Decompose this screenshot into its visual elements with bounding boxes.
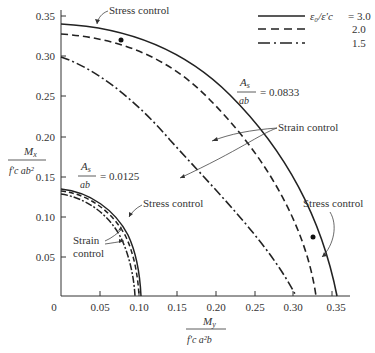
- svg-text:As: As: [239, 76, 250, 90]
- svg-text:0.20: 0.20: [36, 131, 56, 143]
- annotations: Stress control Strain control Stress con…: [73, 4, 363, 259]
- svg-text:= 0.0833: = 0.0833: [260, 86, 300, 98]
- svg-text:Stress control: Stress control: [109, 4, 169, 16]
- svg-text:Mx: Mx: [23, 145, 37, 159]
- arrowheads: [95, 19, 327, 257]
- svg-text:0.15: 0.15: [36, 171, 56, 183]
- svg-text:Strain: Strain: [73, 234, 100, 246]
- interaction-diagram: 0.35 0.30 0.25 0.20 0.15 0.10 0.05 0 0.0…: [0, 0, 375, 353]
- label-as-0833: As ab = 0.0833: [237, 76, 300, 106]
- label-as-0125: As ab = 0.0125: [78, 160, 140, 190]
- svg-text:Stress control: Stress control: [303, 197, 363, 209]
- svg-text:0.30: 0.30: [36, 50, 56, 62]
- x-tick-labels: 0 0.05 0.10 0.15 0.20 0.25 0.30 0.35: [51, 301, 346, 313]
- data-point-marker: [119, 38, 124, 43]
- svg-text:0.35: 0.35: [36, 10, 56, 22]
- svg-text:0.25: 0.25: [245, 301, 265, 313]
- svg-text:0.05: 0.05: [36, 251, 56, 263]
- svg-text:0.20: 0.20: [206, 301, 226, 313]
- svg-text:1.5: 1.5: [352, 37, 366, 49]
- axes: [61, 10, 350, 296]
- svg-text:f'c a²b: f'c a²b: [187, 334, 212, 345]
- svg-text:f'c ab²: f'c ab²: [9, 165, 35, 176]
- svg-text:ab: ab: [239, 95, 249, 106]
- svg-text:0: 0: [51, 301, 57, 313]
- svg-text:control: control: [73, 247, 104, 259]
- svg-text:0.25: 0.25: [36, 90, 56, 102]
- data-point-marker: [311, 235, 316, 240]
- svg-text:Stress control: Stress control: [143, 197, 203, 209]
- legend-labels: ε₀/ε'c = 3.0 2.0 1.5: [310, 10, 371, 49]
- svg-text:Strain control: Strain control: [278, 121, 338, 133]
- svg-text:ε₀/ε'c: ε₀/ε'c: [310, 10, 333, 22]
- svg-text:ab: ab: [80, 179, 90, 190]
- svg-text:0.15: 0.15: [167, 301, 187, 313]
- x-axis-label: My f'c a²b: [186, 315, 226, 345]
- svg-text:2.0: 2.0: [352, 23, 366, 35]
- svg-text:0.30: 0.30: [283, 301, 303, 313]
- svg-text:0.10: 0.10: [129, 301, 149, 313]
- svg-text:= 0.0125: = 0.0125: [100, 170, 140, 182]
- legend: [258, 16, 305, 43]
- svg-text:As: As: [80, 160, 91, 174]
- y-tick-labels: 0.35 0.30 0.25 0.20 0.15 0.10 0.05: [36, 10, 56, 263]
- svg-text:My: My: [202, 315, 216, 329]
- svg-text:0.05: 0.05: [90, 301, 110, 313]
- svg-text:0.10: 0.10: [36, 211, 56, 223]
- svg-text:= 3.0: = 3.0: [348, 10, 371, 22]
- svg-text:0.35: 0.35: [326, 301, 346, 313]
